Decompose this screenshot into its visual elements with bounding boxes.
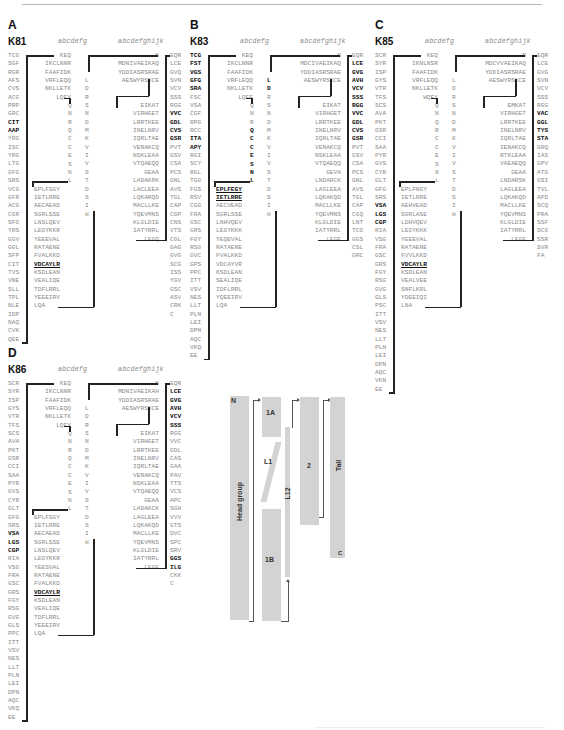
sequence-row: GSC xyxy=(375,252,386,260)
sequence-row: PSC xyxy=(375,302,386,310)
sequence-row: SRS xyxy=(8,522,19,530)
sequence-row: V xyxy=(267,144,271,152)
sequence-row: YDDIASRSRAE xyxy=(461,69,526,77)
heptad-short: abcdefg xyxy=(58,366,87,373)
sequence-row: V xyxy=(85,488,89,496)
sequence-row: VKN xyxy=(375,377,386,385)
sequence-row: TCG xyxy=(190,52,201,60)
sequence-row: GDL xyxy=(352,119,363,127)
sequence-row: AVA xyxy=(375,110,386,118)
sequence-row: PVT xyxy=(170,144,181,152)
sequence-row: C xyxy=(170,580,181,588)
bracket-1b-l12-v xyxy=(275,211,277,308)
sequence-row: INELNRV xyxy=(461,127,526,135)
segment-1b-box xyxy=(262,509,281,621)
coil-1a-sequence: KEQIKNLNSRFAAFIDKVRFLEQQNKLLETKWQFY xyxy=(402,52,438,102)
sequence-row: D xyxy=(452,85,456,93)
sequence-row: SSS xyxy=(352,94,363,102)
bracket-1b-l12-v xyxy=(93,211,95,308)
sequence-row: CGP xyxy=(8,547,19,555)
bracket-tail-top xyxy=(165,55,170,57)
sequence-row: I xyxy=(85,480,89,488)
sequence-row: GSV xyxy=(170,152,181,160)
sequence-row: C xyxy=(68,144,72,152)
sequence-row: APC xyxy=(170,497,181,505)
sequence-row: RSV xyxy=(190,194,201,202)
sequence-row: Q xyxy=(435,119,439,127)
sequence-row: KLGLDIE xyxy=(461,219,526,227)
sequence-row: CVS xyxy=(352,127,363,135)
sequence-row: GVS xyxy=(8,488,19,496)
sequence-row: CVK xyxy=(8,327,19,335)
sequence-row: FAAFIDK xyxy=(35,397,71,405)
sequence-row: TVS xyxy=(8,269,19,277)
heptad-long: abcdefghijk xyxy=(485,38,531,45)
sequence-row: GNL xyxy=(352,177,363,185)
sequence-row: GGS xyxy=(352,236,363,244)
sequence-row: Q xyxy=(68,127,72,135)
bracket-head xyxy=(26,55,28,343)
sequence-row: IDP xyxy=(8,311,19,319)
sequence-row: IAS xyxy=(537,152,548,160)
linker-l12-sequence: LDRSNDMKVIVSTDSIH xyxy=(85,405,89,547)
linker-l1-label: L1 xyxy=(264,458,272,465)
sequence-row: KLGLDIE xyxy=(94,219,159,227)
connector-head-1a-bottom xyxy=(249,621,254,622)
sequence-row: SGRLASE xyxy=(401,211,427,219)
sequence-row: MDNIVAEIKAQ xyxy=(94,60,159,68)
sequence-row: VSG xyxy=(375,236,386,244)
sequence-row: SEALIQE xyxy=(216,277,242,285)
coil-1a-sequence: KEQIKCLNNRFAAFIDKVRFLEQQNKLLETKLQFY xyxy=(35,380,71,430)
segment-2-box xyxy=(300,397,319,525)
bracket-1a-l1-v xyxy=(251,98,253,104)
sequence-row: AQC xyxy=(190,336,201,344)
sequence-row: NKLLETK xyxy=(402,85,438,93)
sequence-row: CSA xyxy=(352,160,363,168)
tail-box xyxy=(330,397,345,558)
sequence-row: V xyxy=(267,160,271,168)
sequence-row: ISP xyxy=(8,397,19,405)
sequence-row: GSR xyxy=(8,455,19,463)
sequence-row: PAV xyxy=(170,472,181,480)
sequence-row: R xyxy=(68,119,72,127)
sequence-row: LAGLEEA xyxy=(94,514,159,522)
sequence-row: IATYRRL xyxy=(94,227,159,235)
sequence-row: E xyxy=(68,480,72,488)
sequence-row: YRG xyxy=(8,135,19,143)
linker-l12-sequence: LDRSNDMKVIVSTDSIH xyxy=(85,77,89,219)
tail-domain-sequence: EQRLCEGVGAVHVCVSSSRGGVVCGDLCASGAAPAVTTSV… xyxy=(170,380,181,589)
sequence-row: RGL xyxy=(190,169,201,177)
sequence-row: FGY xyxy=(375,269,386,277)
sequence-row: EE xyxy=(375,386,386,394)
sequence-row: INELNRV xyxy=(276,127,341,135)
sequence-row: CIT xyxy=(8,119,19,127)
sequence-row: IATYRRL xyxy=(94,555,159,563)
bracket-2-internal-h xyxy=(483,96,516,98)
bracket-2-internal-h xyxy=(116,424,149,426)
sequence-row: IQRLTAE xyxy=(94,463,159,471)
sequence-row: FGY xyxy=(8,597,19,605)
tail-domain-sequence: EQRLCEGVQSVNVCVSSSRGGVVCGDLCVSGSRPVTGSVC… xyxy=(170,52,181,319)
sequence-row: S xyxy=(267,169,271,177)
sequence-row: CVS xyxy=(8,85,19,93)
sequence-row: LQKAKQD xyxy=(461,194,526,202)
sequence-row: GDL xyxy=(170,447,181,455)
bracket-2-internal xyxy=(515,79,517,96)
sequence-row: VRFLEQQ xyxy=(217,77,253,85)
sequence-row: S xyxy=(435,161,439,169)
sequence-row: VIRHGET xyxy=(94,110,159,118)
sequence-row: C xyxy=(435,144,439,152)
sequence-row: N xyxy=(250,110,254,118)
sequence-row: MACLLKE xyxy=(94,530,159,538)
top-rule xyxy=(22,4,542,5)
connector-l12-2 xyxy=(292,400,293,428)
sequence-row: FVALKKD xyxy=(34,580,60,588)
bracket-2-tail xyxy=(318,240,348,242)
sequence-row: FVALKKD xyxy=(216,252,242,260)
heptad-short: abcdefg xyxy=(58,38,87,45)
sequence-row: CCI xyxy=(375,135,386,143)
bracket-2-internal-v xyxy=(298,96,300,109)
sequence-row: S xyxy=(452,169,456,177)
sequence-row: R xyxy=(452,94,456,102)
bracket-2-tail xyxy=(136,240,166,242)
